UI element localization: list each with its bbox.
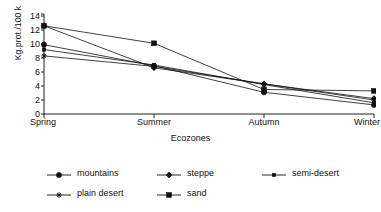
x-axis-title: Ecozones [0, 133, 381, 143]
y-tick-label: 10 [20, 40, 40, 49]
data-point-marker [41, 53, 47, 59]
legend-item-semi-desert[interactable]: semi-desert [261, 163, 366, 183]
series-line [44, 26, 374, 91]
legend-marker-small-square-icon [261, 167, 287, 179]
series-line [44, 26, 374, 99]
legend-label: sand [187, 188, 207, 198]
series-sand [42, 23, 376, 93]
legend-marker-asterisk-icon [46, 187, 72, 199]
legend-item-sand[interactable]: sand [156, 183, 261, 203]
legend-label: plain desert [77, 188, 124, 198]
legend-label: semi-desert [292, 168, 339, 178]
legend-marker-circle-icon [46, 167, 72, 179]
data-point-marker [56, 172, 61, 177]
x-tick-label-winter: Winter [354, 118, 380, 127]
series-plain-desert [41, 53, 376, 103]
data-point-marker [41, 42, 46, 47]
y-tick-label: 14 [20, 12, 40, 21]
data-point-marker [261, 81, 267, 87]
plot-svg [18, 10, 376, 122]
data-point-marker [166, 172, 172, 178]
series-steppe [41, 23, 376, 102]
data-point-marker [42, 48, 45, 51]
data-point-marker [167, 193, 172, 198]
data-point-marker [56, 192, 62, 198]
legend-item-plain-desert[interactable]: plain desert [46, 183, 156, 203]
y-tick-label: 2 [20, 96, 40, 105]
data-point-marker [372, 89, 376, 94]
data-point-marker [152, 41, 157, 46]
legend-label: mountains [77, 168, 119, 178]
legend-item-mountains[interactable]: mountains [46, 163, 156, 183]
series-line [44, 56, 374, 100]
legend-row: mountainssteppesemi-desert [46, 163, 366, 183]
legend-label: steppe [187, 168, 214, 178]
data-point-marker [42, 23, 47, 28]
plot-area [18, 10, 376, 122]
data-point-marker [272, 173, 275, 176]
legend-row: plain desertsand [46, 183, 366, 203]
chart-legend: mountainssteppesemi-desertplain desertsa… [46, 163, 366, 203]
x-tick-label-summer: Summer [137, 118, 171, 127]
legend-marker-diamond-icon [156, 167, 182, 179]
line-chart: Kg.prot./100 k 02468101214 SpringSummerA… [0, 0, 381, 212]
y-tick-label: 12 [20, 26, 40, 35]
data-point-marker [262, 87, 267, 92]
y-tick-label: 8 [20, 54, 40, 63]
x-tick-label-autumn: Autumn [249, 118, 280, 127]
x-tick-label-spring: Spring [30, 118, 56, 127]
legend-marker-square-icon [156, 187, 182, 199]
y-tick-label: 4 [20, 82, 40, 91]
legend-item-steppe[interactable]: steppe [156, 163, 261, 183]
y-tick-label: 6 [20, 68, 40, 77]
